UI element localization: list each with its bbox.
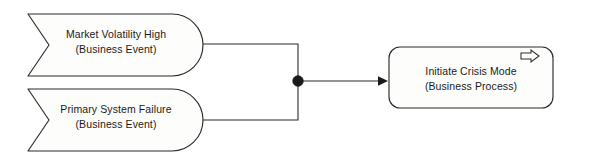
connector-junction-to-process[interactable]: [298, 76, 388, 86]
node-initiate-crisis-mode[interactable]: Initiate Crisis Mode (Business Process): [389, 47, 553, 108]
arrowhead-icon: [378, 76, 388, 86]
and-junction[interactable]: [293, 76, 304, 87]
diagram-canvas: Market Volatility High (Business Event) …: [0, 0, 590, 163]
junction-dot-icon: [293, 76, 304, 87]
connector-primary-failure-to-junction[interactable]: [203, 81, 298, 120]
connector-path: [203, 44, 298, 81]
node-sublabel-primary-system-failure: (Business Event): [76, 118, 157, 130]
connector-market-volatility-to-junction[interactable]: [203, 44, 298, 81]
node-market-volatility-high[interactable]: Market Volatility High (Business Event): [28, 14, 203, 76]
diagram-canvas-container: Market Volatility High (Business Event) …: [0, 0, 590, 163]
node-label-initiate-crisis-mode: Initiate Crisis Mode: [425, 65, 516, 77]
node-sublabel-market-volatility-high: (Business Event): [76, 43, 157, 55]
node-primary-system-failure[interactable]: Primary System Failure (Business Event): [28, 89, 203, 151]
node-sublabel-initiate-crisis-mode: (Business Process): [425, 80, 517, 92]
node-label-market-volatility-high: Market Volatility High: [66, 28, 166, 40]
node-label-primary-system-failure: Primary System Failure: [60, 103, 171, 115]
connector-path: [203, 81, 298, 120]
